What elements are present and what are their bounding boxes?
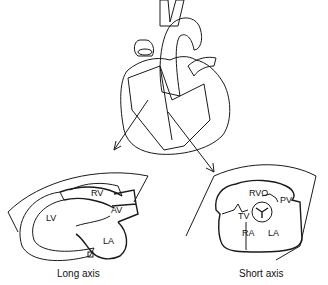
label-ra: RA — [242, 228, 255, 238]
long-axis-sector — [8, 173, 148, 232]
arrow-short-axis — [168, 112, 214, 172]
la-outline — [76, 222, 127, 259]
short-axis-view: RVO PV TV RA LA Short axis — [186, 165, 316, 279]
heart-echo-diagram: RV AV LV LA Long axis RVO PV TV RA LA Sh… — [0, 0, 328, 285]
great-vessels — [160, 0, 184, 26]
long-axis-view: RV AV LV LA Long axis — [8, 173, 148, 279]
label-lv: LV — [46, 213, 56, 223]
short-axis-sector — [186, 165, 316, 260]
label-rv: RV — [91, 188, 103, 198]
diagram-canvas: RV AV LV LA Long axis RVO PV TV RA LA Sh… — [0, 0, 328, 285]
pulmonary-artery — [188, 57, 216, 76]
caption-long-axis: Long axis — [57, 268, 100, 279]
aortic-valve-cusps — [256, 208, 268, 218]
heart-body — [121, 57, 230, 155]
label-av: AV — [111, 205, 122, 215]
caption-short-axis: Short axis — [239, 268, 283, 279]
heart-illustration — [114, 0, 230, 172]
label-la: LA — [103, 236, 114, 246]
lv-wall — [20, 192, 94, 261]
imaging-plane — [128, 66, 210, 150]
label-tv: TV — [238, 211, 250, 221]
label-rvo: RVO — [249, 188, 268, 198]
label-pv: PV — [280, 195, 292, 205]
label-la-short: LA — [268, 228, 279, 238]
